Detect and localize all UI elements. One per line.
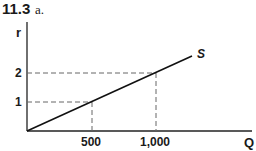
y-tick-1: 1 [15,95,22,109]
x-tick-500: 500 [81,135,101,149]
supply-chart [0,0,256,151]
y-tick-2: 2 [15,66,22,80]
supply-curve [27,56,192,131]
curve-label: S [197,47,205,61]
x-axis-label: Q [244,135,254,150]
x-tick-1000: 1,000 [140,135,170,149]
y-axis-label: r [16,25,21,40]
